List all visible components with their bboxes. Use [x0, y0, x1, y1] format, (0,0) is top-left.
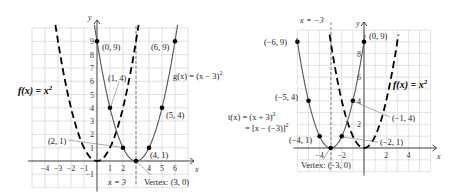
right-y-axis-label: y: [355, 19, 360, 28]
right-graph-t-shift-left: −4−2242468 y x (−6, 9) (−5, 4) (−4, 1) (…: [228, 15, 441, 176]
data-point: [95, 39, 100, 44]
label-point-m4-1: (−4, 1): [289, 135, 312, 145]
svg-text:4: 4: [406, 151, 410, 160]
svg-text:4: 4: [90, 104, 94, 113]
left-y-axis-label: y: [87, 13, 92, 22]
right-vertex-label: Vertex: (−3, 0): [301, 160, 351, 170]
t-function-label-line2: = [x − (−3)]2: [245, 122, 289, 133]
leader-right-vertex: [323, 150, 329, 160]
svg-text:6: 6: [173, 164, 177, 173]
t-function-label-line1: t(x) = (x + 3)2: [228, 111, 276, 122]
svg-text:5: 5: [90, 91, 94, 100]
data-point: [306, 99, 311, 104]
svg-text:7: 7: [90, 64, 94, 73]
svg-text:2: 2: [357, 120, 361, 129]
left-vertex-label: Vertex: (3, 0): [144, 177, 189, 187]
label-point-m1-4: (−1, 4): [392, 113, 415, 123]
label-point-m5-4: (−5, 4): [275, 92, 298, 102]
svg-text:1: 1: [90, 144, 94, 153]
left-x-axis-label: x: [194, 165, 199, 174]
right-f-function-label: f(x) = x2: [393, 78, 428, 91]
svg-text:2: 2: [121, 164, 125, 173]
svg-text:3: 3: [90, 117, 94, 126]
right-axis-of-symmetry-label: x = −3: [299, 15, 324, 25]
svg-text:2: 2: [384, 151, 388, 160]
svg-text:−3: −3: [54, 164, 63, 173]
label-point-0-9-right: (0, 9): [369, 31, 388, 41]
label-point-1-4: (1, 4): [108, 73, 127, 83]
svg-text:5: 5: [160, 164, 164, 173]
label-point-2-1: (2, 1): [48, 136, 67, 146]
data-point: [108, 106, 113, 111]
label-point-6-9: (6, 9): [151, 42, 170, 52]
g-function-label: g(x) = (x − 3)2: [173, 70, 222, 81]
data-point: [295, 40, 300, 45]
label-point-5-4: (5, 4): [166, 110, 185, 120]
data-point: [317, 134, 322, 139]
svg-text:9: 9: [90, 37, 94, 46]
data-point: [160, 106, 165, 111]
data-point: [340, 134, 345, 139]
svg-text:−4: −4: [41, 164, 50, 173]
svg-text:−2: −2: [67, 164, 76, 173]
left-axis-of-symmetry-label: x = 3: [107, 177, 126, 187]
data-point: [328, 146, 333, 151]
data-point: [351, 99, 356, 104]
label-point-m2-1: (−2, 1): [380, 137, 403, 147]
data-point: [173, 39, 178, 44]
svg-text:−1: −1: [85, 170, 94, 179]
data-point: [362, 40, 367, 45]
parabola-shift-figure: −4−3−2−112456−1123456789 y x (0, 9) (1, …: [0, 0, 462, 193]
svg-text:2: 2: [90, 130, 94, 139]
svg-text:8: 8: [90, 51, 94, 60]
label-point-4-1: (4, 1): [150, 150, 169, 160]
label-point-0-9: (0, 9): [102, 42, 121, 52]
right-x-axis-label: x: [436, 152, 441, 161]
svg-text:1: 1: [108, 164, 112, 173]
left-graph-g-shift-right: −4−3−2−112456−1123456789 y x (0, 9) (1, …: [18, 13, 222, 192]
svg-text:−4: −4: [315, 151, 324, 160]
svg-text:−2: −2: [338, 151, 347, 160]
leader-1-4: [111, 82, 119, 106]
data-point: [121, 145, 126, 150]
svg-text:8: 8: [357, 50, 361, 59]
label-point-m6-9: (−6, 9): [264, 37, 287, 47]
left-f-function-label: f(x) = x2: [18, 84, 53, 97]
svg-text:6: 6: [90, 77, 94, 86]
